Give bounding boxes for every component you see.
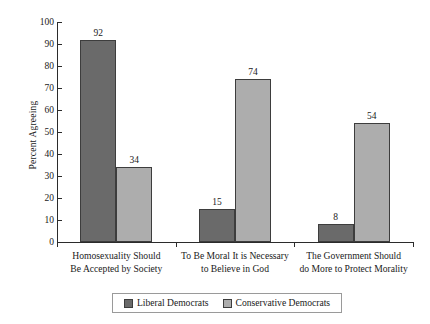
- y-axis-tick-label: 0: [14, 237, 54, 247]
- y-axis-tick-label: 90: [14, 39, 54, 49]
- y-axis-tick-label: 70: [14, 83, 54, 93]
- y-axis-tick-label: 10: [14, 215, 54, 225]
- y-axis-tick-label: 100: [14, 17, 54, 27]
- x-axis-group-label: To Be Moral It is Necessaryto Believe in…: [168, 250, 303, 275]
- x-axis-tick: [176, 242, 177, 247]
- y-axis-tick: [57, 22, 62, 23]
- x-axis-group-label: The Government Shoulddo More to Protect …: [286, 250, 421, 275]
- bar-chart: Percent Agreeing 1009080706050403020100 …: [0, 0, 430, 324]
- x-axis-tick: [57, 242, 58, 247]
- legend-item-liberal-democrats: Liberal Democrats: [124, 298, 209, 308]
- bar-value-label: 74: [225, 67, 281, 77]
- x-axis-group-label-line: Be Accepted by Society: [49, 263, 184, 276]
- bar: [354, 123, 390, 242]
- y-axis-tick: [57, 66, 62, 67]
- bar: [80, 40, 116, 242]
- y-axis-tick: [57, 132, 62, 133]
- y-axis-tick: [57, 44, 62, 45]
- bar-value-label: 34: [106, 155, 162, 165]
- bar-value-label: 92: [70, 28, 126, 38]
- legend-swatch-icon: [124, 299, 133, 308]
- legend: Liberal Democrats Conservative Democrats: [112, 293, 342, 313]
- y-axis-tick: [57, 176, 62, 177]
- y-axis-tick-label: 30: [14, 171, 54, 181]
- bar: [318, 224, 354, 242]
- legend-item-conservative-democrats: Conservative Democrats: [223, 298, 331, 308]
- y-axis-tick-label: 20: [14, 193, 54, 203]
- y-axis-tick-label: 40: [14, 149, 54, 159]
- x-axis-tick: [294, 242, 295, 247]
- x-axis-group-label-line: do More to Protect Morality: [286, 263, 421, 276]
- legend-swatch-icon: [223, 299, 232, 308]
- y-axis-tick: [57, 110, 62, 111]
- x-axis-line: [57, 242, 413, 243]
- x-axis-group-label: Homosexuality ShouldBe Accepted by Socie…: [49, 250, 184, 275]
- y-axis-tick: [57, 88, 62, 89]
- x-axis-group-label-line: Homosexuality Should: [49, 250, 184, 263]
- x-axis-group-label-line: To Be Moral It is Necessary: [168, 250, 303, 263]
- x-axis-tick: [413, 242, 414, 247]
- y-axis-tick: [57, 198, 62, 199]
- x-axis-group-label-line: to Believe in God: [168, 263, 303, 276]
- bar: [116, 167, 152, 242]
- legend-label-conservative-democrats: Conservative Democrats: [236, 298, 331, 308]
- x-axis-group-label-line: The Government Should: [286, 250, 421, 263]
- legend-label-liberal-democrats: Liberal Democrats: [137, 298, 209, 308]
- bar-value-label: 54: [344, 111, 400, 121]
- y-axis-tick-label: 80: [14, 61, 54, 71]
- bar: [199, 209, 235, 242]
- y-axis-tick-label: 60: [14, 105, 54, 115]
- bar: [235, 79, 271, 242]
- y-axis-tick: [57, 154, 62, 155]
- y-axis-tick: [57, 220, 62, 221]
- y-axis-tick-label: 50: [14, 127, 54, 137]
